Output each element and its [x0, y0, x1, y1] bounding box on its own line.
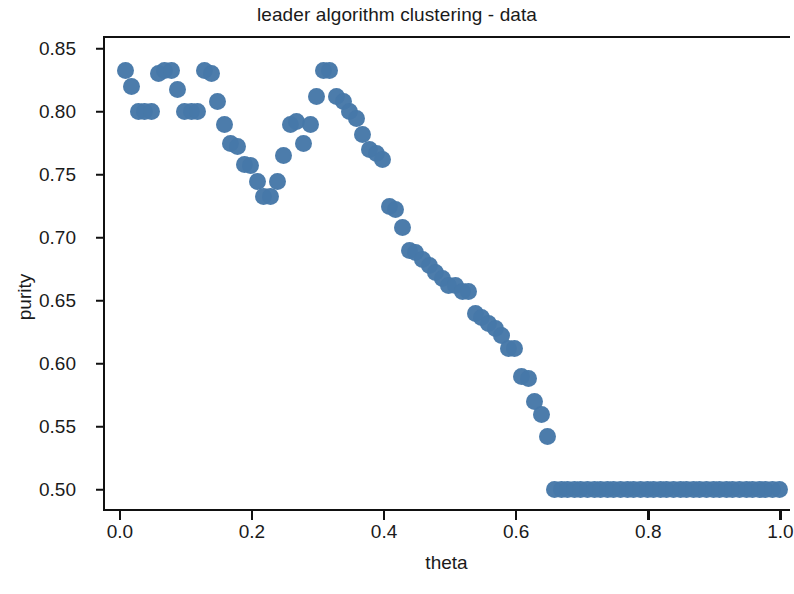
x-tick-label: 0.4	[344, 521, 424, 543]
scatter-point	[387, 201, 404, 218]
scatter-point	[229, 138, 246, 155]
scatter-point	[163, 62, 180, 79]
y-tick-label: 0.65	[6, 290, 76, 312]
scatter-point	[249, 173, 266, 190]
x-tick-mark	[515, 511, 518, 520]
y-tick-label: 0.50	[6, 479, 76, 501]
scatter-point	[302, 116, 319, 133]
y-tick-label: 0.60	[6, 353, 76, 375]
scatter-point	[275, 147, 292, 164]
scatter-point	[117, 62, 134, 79]
scatter-point	[269, 173, 286, 190]
scatter-point	[189, 103, 206, 120]
y-tick-label: 0.85	[6, 38, 76, 60]
y-tick-mark	[96, 299, 105, 302]
y-tick-mark	[96, 425, 105, 428]
y-tick-mark	[96, 173, 105, 176]
scatter-point	[506, 340, 523, 357]
x-tick-label: 0.2	[212, 521, 292, 543]
scatter-point	[216, 116, 233, 133]
scatter-point	[520, 370, 537, 387]
x-tick-label: 0.6	[476, 521, 556, 543]
plot-area: 0.500.550.600.650.700.750.800.85	[103, 36, 790, 511]
scatter-point	[123, 78, 140, 95]
y-tick-mark	[96, 110, 105, 113]
scatter-point	[242, 157, 259, 174]
chart-figure: leader algorithm clustering - data purit…	[0, 0, 794, 594]
scatter-point	[460, 283, 477, 300]
x-tick-mark	[383, 511, 386, 520]
y-tick-mark	[96, 362, 105, 365]
scatter-point	[209, 93, 226, 110]
x-tick-mark	[119, 511, 122, 520]
x-tick-label: 0.0	[80, 521, 160, 543]
scatter-point	[533, 406, 550, 423]
x-tick-label: 0.8	[608, 521, 688, 543]
scatter-point	[143, 103, 160, 120]
y-tick-label: 0.55	[6, 416, 76, 438]
scatter-points-layer	[105, 38, 790, 509]
x-axis: 0.00.20.40.60.81.0	[103, 511, 790, 551]
x-axis-label: theta	[103, 552, 790, 574]
scatter-point	[348, 110, 365, 127]
y-tick-label: 0.80	[6, 101, 76, 123]
scatter-point	[374, 151, 391, 168]
x-tick-mark	[251, 511, 254, 520]
y-tick-mark	[96, 488, 105, 491]
scatter-point	[203, 65, 220, 82]
scatter-point	[539, 428, 556, 445]
scatter-point	[394, 219, 411, 236]
x-tick-mark	[647, 511, 650, 520]
scatter-point	[169, 81, 186, 98]
scatter-point	[308, 88, 325, 105]
x-tick-mark	[779, 511, 782, 520]
scatter-point	[321, 62, 338, 79]
y-tick-mark	[96, 47, 105, 50]
y-tick-mark	[96, 236, 105, 239]
scatter-point	[771, 481, 788, 498]
chart-title: leader algorithm clustering - data	[0, 4, 794, 26]
y-tick-label: 0.75	[6, 164, 76, 186]
scatter-point	[262, 188, 279, 205]
y-tick-label: 0.70	[6, 227, 76, 249]
x-tick-label: 1.0	[740, 521, 794, 543]
scatter-point	[295, 135, 312, 152]
